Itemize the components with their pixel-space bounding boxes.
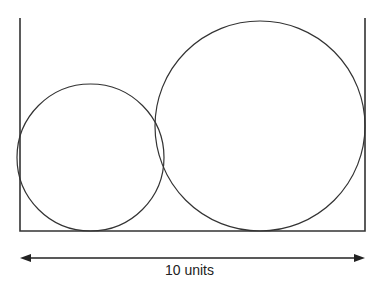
small-circle <box>17 84 164 231</box>
large-circle <box>155 21 365 231</box>
box-outline <box>20 18 365 231</box>
diagram-canvas <box>0 0 379 292</box>
width-dimension-arrow <box>20 254 365 262</box>
dimension-label: 10 units <box>0 262 379 278</box>
